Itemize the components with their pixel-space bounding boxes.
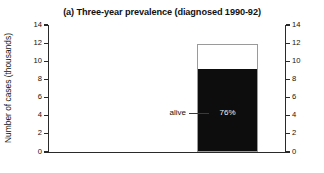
y-axis-label: Number of cases (thousands): [0, 22, 16, 154]
annotation-leader-line: [189, 113, 209, 114]
y-axis-left-tick-mark: [44, 61, 48, 62]
y-axis-right-tick-label: 2: [292, 129, 304, 137]
bar-total: [197, 44, 258, 152]
y-axis-left-line: [48, 25, 49, 153]
y-axis-left-tick-label: 12: [30, 39, 42, 47]
chart-title: (a) Three-year prevalence (diagnosed 199…: [0, 7, 324, 17]
y-axis-left-tick-label: 14: [30, 21, 42, 29]
y-axis-right-tick-label: 0: [292, 148, 304, 156]
y-axis-right-tick-label: 10: [292, 57, 304, 65]
y-axis-right-tick-label: 6: [292, 93, 304, 101]
y-axis-left-tick-mark: [44, 115, 48, 116]
y-axis-right-tick-mark: [286, 43, 290, 44]
y-axis-left-tick-mark: [44, 97, 48, 98]
y-axis-left-tick-mark: [44, 79, 48, 80]
y-axis-left-tick-mark: [44, 133, 48, 134]
y-axis-right-tick-mark: [286, 115, 290, 116]
y-axis-left-tick-mark: [44, 43, 48, 44]
y-axis-right-tick-label: 8: [292, 75, 304, 83]
y-axis-right-tick-mark: [286, 61, 290, 62]
y-axis-left-tick-mark: [44, 24, 48, 25]
x-axis-line: [48, 152, 286, 153]
y-axis-left-tick-label: 0: [30, 148, 42, 156]
y-axis-left-tick-label: 4: [30, 111, 42, 119]
y-axis-right-tick-mark: [286, 151, 290, 152]
y-axis-right-tick-mark: [286, 24, 290, 25]
y-axis-left-tick-label: 2: [30, 129, 42, 137]
prevalence-bar-chart: (a) Three-year prevalence (diagnosed 199…: [0, 0, 324, 173]
y-axis-right-tick-label: 14: [292, 21, 304, 29]
y-axis-right-tick-mark: [286, 97, 290, 98]
y-axis-label-container: Number of cases (thousands): [0, 22, 16, 154]
y-axis-left-tick-label: 10: [30, 57, 42, 65]
y-axis-left-tick-label: 6: [30, 93, 42, 101]
y-axis-right-tick-label: 12: [292, 39, 304, 47]
y-axis-right-tick-mark: [286, 133, 290, 134]
y-axis-left-tick-label: 8: [30, 75, 42, 83]
y-axis-left-tick-mark: [44, 151, 48, 152]
bar-segment-not-alive: [198, 45, 257, 71]
y-axis-right-tick-mark: [286, 79, 290, 80]
annotation-alive-label: alive: [158, 108, 186, 117]
y-axis-right-tick-label: 4: [292, 111, 304, 119]
